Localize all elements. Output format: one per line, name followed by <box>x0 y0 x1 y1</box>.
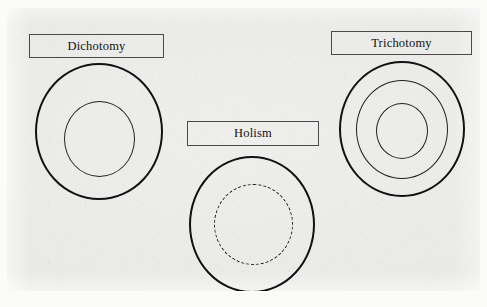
label-box-trichotomy: Trichotomy <box>331 31 472 55</box>
label-box-holism: Holism <box>187 121 319 146</box>
dichotomy-inner-ring <box>64 101 135 177</box>
figure-panel: Dichotomy Holism Trichotomy <box>7 8 480 291</box>
figure-root: Dichotomy Holism Trichotomy <box>0 0 487 307</box>
label-text-trichotomy: Trichotomy <box>371 36 432 51</box>
label-text-dichotomy: Dichotomy <box>67 39 125 54</box>
diagram-holism <box>189 156 316 291</box>
label-text-holism: Holism <box>234 126 272 141</box>
trichotomy-inner-ring <box>376 103 428 159</box>
diagram-dichotomy <box>35 63 165 201</box>
diagram-trichotomy <box>339 61 467 198</box>
label-box-dichotomy: Dichotomy <box>29 34 164 58</box>
holism-inner-dashed-ring <box>214 184 293 265</box>
